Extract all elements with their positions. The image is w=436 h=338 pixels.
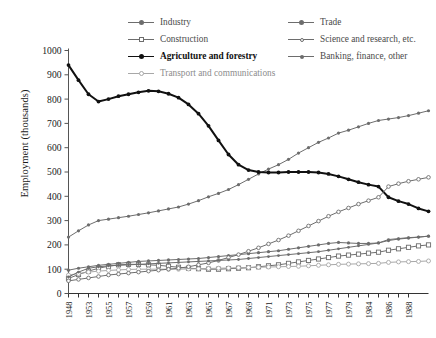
data-point	[67, 279, 71, 283]
data-point	[367, 122, 370, 125]
data-point	[297, 229, 301, 233]
data-point	[387, 117, 390, 120]
data-point	[417, 259, 421, 263]
data-point	[107, 218, 110, 221]
y-tick-label: 1000	[42, 45, 61, 56]
data-point	[147, 262, 150, 265]
y-ticks-group: 01002003004005006007008009001000	[42, 45, 68, 299]
series-line	[69, 236, 429, 277]
data-point	[307, 224, 311, 228]
data-point	[167, 267, 171, 271]
data-point	[317, 171, 321, 175]
data-point	[167, 261, 170, 264]
data-point	[97, 100, 101, 104]
data-point	[267, 171, 271, 175]
data-point	[347, 129, 350, 132]
data-point	[117, 272, 121, 276]
x-tick-label: 1986	[385, 302, 394, 319]
x-tick-label: 1953	[85, 302, 94, 319]
data-point	[307, 170, 311, 174]
data-point	[287, 265, 291, 269]
series-transport-and-communications[interactable]	[67, 259, 431, 277]
data-point	[287, 234, 291, 238]
data-point	[277, 265, 281, 269]
data-point	[317, 263, 321, 267]
data-point	[407, 114, 410, 117]
series-construction[interactable]	[66, 243, 430, 281]
data-point	[177, 266, 181, 270]
data-point	[177, 96, 181, 100]
data-point	[296, 260, 300, 264]
data-point	[327, 136, 330, 139]
data-point	[347, 241, 350, 244]
data-point	[187, 265, 191, 269]
data-point	[297, 264, 301, 268]
data-point	[297, 151, 300, 154]
data-point	[67, 236, 70, 239]
data-point	[327, 242, 330, 245]
x-tick-label: 1948	[65, 302, 74, 319]
data-point	[227, 153, 231, 157]
data-point	[137, 90, 141, 94]
data-point	[317, 243, 320, 246]
x-tick-label: 1973	[285, 302, 294, 319]
data-point	[267, 255, 270, 258]
y-tick-label: 0	[57, 288, 62, 299]
data-point	[247, 178, 250, 181]
data-point	[377, 119, 380, 122]
data-point	[277, 171, 281, 175]
data-point	[337, 174, 341, 178]
data-point	[357, 202, 361, 206]
data-point	[327, 172, 331, 176]
data-point	[237, 266, 241, 270]
data-point	[207, 195, 210, 198]
x-tick-label: 1961	[165, 302, 174, 319]
data-point	[277, 249, 280, 252]
chart-page: Industry Construction Agriculture and fo…	[0, 0, 436, 338]
data-point	[127, 263, 130, 266]
data-point	[267, 265, 271, 269]
y-tick-label: 800	[47, 94, 62, 105]
series-banking-finance-other[interactable]	[67, 235, 430, 279]
data-point	[107, 97, 111, 101]
data-point	[287, 253, 290, 256]
data-point	[287, 158, 290, 161]
data-point	[297, 246, 300, 249]
y-tick-label: 600	[47, 142, 62, 153]
data-point	[277, 238, 281, 242]
data-point	[417, 177, 421, 181]
data-point	[87, 223, 90, 226]
data-point	[227, 266, 231, 270]
data-point	[387, 195, 391, 199]
data-point	[157, 262, 160, 265]
data-point	[387, 185, 391, 189]
x-tick-label: 1975	[305, 302, 314, 319]
data-point	[97, 269, 101, 273]
data-point	[267, 167, 270, 170]
data-point	[337, 262, 341, 266]
data-point	[427, 209, 431, 213]
y-tick-label: 900	[47, 69, 62, 80]
series-line	[69, 65, 429, 211]
data-point	[337, 241, 340, 244]
data-point	[367, 243, 370, 246]
data-point	[297, 252, 300, 255]
series-industry[interactable]	[67, 109, 430, 239]
data-point	[217, 266, 221, 270]
data-point	[317, 219, 321, 223]
data-point	[87, 267, 90, 270]
data-point	[67, 269, 70, 272]
data-point	[327, 214, 331, 218]
data-point	[177, 261, 180, 264]
data-point	[77, 78, 81, 82]
data-point	[117, 268, 121, 272]
series-agriculture-and-forestry[interactable]	[67, 63, 431, 213]
data-point	[127, 271, 131, 275]
data-point	[397, 237, 400, 240]
data-point	[217, 255, 220, 258]
x-tick-label: 1967	[225, 302, 234, 319]
data-point	[247, 257, 250, 260]
data-point	[317, 250, 320, 253]
data-point	[376, 250, 380, 254]
data-point	[327, 249, 330, 252]
